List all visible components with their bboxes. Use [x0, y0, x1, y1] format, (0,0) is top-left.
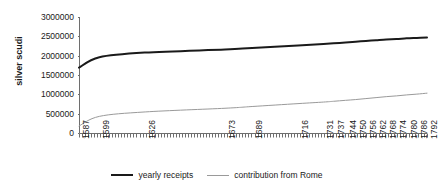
legend-line-icon [207, 175, 229, 176]
y-tick-label: 1000000 [16, 90, 74, 98]
y-tick-label: 2000000 [16, 52, 74, 60]
chart-svg [78, 17, 436, 145]
chart-legend: yearly receiptscontribution from Rome [0, 170, 434, 180]
y-tick-label: 0 [16, 129, 74, 137]
plot-area [78, 17, 426, 133]
y-tick-label: 3000000 [16, 13, 74, 21]
y-axis-tick-labels: 3000000250000020000001500000100000050000… [12, 0, 74, 191]
x-axis-ticks [80, 134, 428, 138]
y-tick-label: 1500000 [16, 71, 74, 79]
legend-line-icon [111, 174, 133, 176]
legend-item-0[interactable]: yearly receipts [111, 170, 193, 180]
y-tick-label: 500000 [16, 110, 74, 118]
y-tick-label: 2500000 [16, 32, 74, 40]
legend-item-1[interactable]: contribution from Rome [207, 170, 322, 180]
legend-item-label: yearly receipts [138, 170, 193, 180]
series-line-0 [79, 37, 427, 67]
legend-item-label: contribution from Rome [234, 170, 322, 180]
series-line-1 [79, 93, 427, 126]
